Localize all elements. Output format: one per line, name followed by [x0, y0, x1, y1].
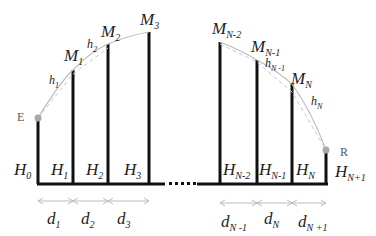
label-hn: hN — [311, 95, 322, 111]
label-h2: h2 — [87, 38, 97, 54]
ellipsis-dots — [169, 182, 196, 185]
label-r: R — [340, 146, 348, 158]
endpoint-e-marker — [35, 115, 42, 122]
label-d1: d1 — [47, 210, 61, 230]
label-d2: d2 — [81, 210, 95, 230]
label-H1: H1 — [51, 161, 68, 181]
label-d3: d3 — [117, 210, 131, 230]
label-mn-1: MN-1 — [251, 38, 280, 58]
label-hn-1: hN -1 — [265, 57, 285, 73]
label-dn+1: dN +1 — [298, 213, 327, 233]
label-m2: M2 — [101, 23, 120, 43]
label-H2: H2 — [86, 161, 103, 181]
label-dn: dN — [264, 210, 279, 230]
label-dn-1: dN -1 — [221, 213, 247, 233]
endpoint-r-marker — [323, 147, 330, 154]
label-mn-2: MN-2 — [212, 20, 241, 40]
diagram-graphics — [0, 0, 376, 236]
label-HN-2: HN-2 — [223, 161, 250, 181]
label-e: E — [17, 111, 24, 123]
label-h1: h1 — [49, 74, 59, 90]
label-HN+1: HN+1 — [335, 163, 366, 183]
distance-arrows — [38, 198, 326, 206]
label-mn: MN — [291, 70, 312, 90]
label-m3: M3 — [140, 11, 159, 31]
label-m1: M1 — [64, 47, 83, 67]
label-HN-1: HN-1 — [259, 161, 286, 181]
label-h0: H0 — [14, 161, 31, 181]
label-HN: HN — [296, 161, 315, 181]
terrain-diagram: E R M1 M2 M3 MN-2 MN-1 MN h1 h2 hN -1 hN… — [0, 0, 376, 236]
label-H3: H3 — [124, 161, 141, 181]
